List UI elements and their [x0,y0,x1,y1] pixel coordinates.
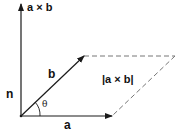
origin-point [20,115,23,118]
vector-a-label: a [64,119,71,131]
vector-b-label: b [48,68,55,80]
normal-vector-label: n [6,88,13,100]
magnitude-label: |a × b| [102,74,134,85]
cross-product-label: a × b [27,2,52,13]
angle-theta-label: θ [42,100,47,109]
angle-arc [35,102,40,116]
vector-b-arrow [21,56,84,116]
parallelogram-right-edge [112,56,175,116]
cross-product-diagram [0,0,180,133]
